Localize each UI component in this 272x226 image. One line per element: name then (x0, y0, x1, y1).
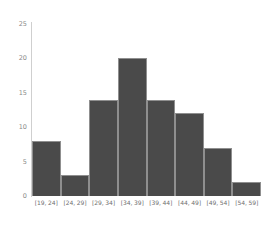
plot-area (32, 24, 261, 196)
histogram-bar (147, 100, 176, 196)
y-axis-tick-label: 0 (23, 193, 32, 200)
y-axis-tick-label: 5 (23, 158, 32, 165)
x-axis-tick-label: [24, 29] (61, 200, 90, 206)
x-axis-tick-label: [29, 34] (89, 200, 118, 206)
x-axis-tick-label: [54, 59] (232, 200, 261, 206)
x-axis-tick-label: [44, 49] (175, 200, 204, 206)
histogram-chart: 0510152025 [19, 24][24, 29][29, 34][34, … (0, 0, 272, 226)
x-axis-tick-label: [39, 44] (147, 200, 176, 206)
x-axis-labels: [19, 24][24, 29][29, 34][34, 39][39, 44]… (32, 200, 261, 206)
histogram-bar (175, 113, 204, 196)
y-axis-tick-label: 10 (19, 124, 32, 131)
histogram-bar (204, 148, 233, 196)
bar-series (32, 24, 261, 196)
x-axis-tick-label: [49, 54] (204, 200, 233, 206)
histogram-bar (32, 141, 61, 196)
x-axis-tick-label: [19, 24] (32, 200, 61, 206)
histogram-bar (118, 58, 147, 196)
y-axis-tick-label: 15 (19, 90, 32, 97)
y-axis-tick-label: 25 (19, 21, 32, 28)
x-axis-tick-label: [34, 39] (118, 200, 147, 206)
histogram-bar (232, 182, 261, 196)
histogram-bar (89, 100, 118, 196)
histogram-bar (61, 175, 90, 196)
y-axis-tick-label: 20 (19, 55, 32, 62)
